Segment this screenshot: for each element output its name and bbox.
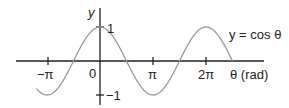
y-tick-label-neg-one: −1 [106, 89, 121, 102]
x-axis-label: θ (rad) [230, 68, 268, 81]
x-tick-label-pi: π [148, 68, 157, 81]
y-axis-label: y [88, 6, 95, 19]
x-tick-label-neg-pi: −π [37, 68, 54, 81]
x-tick-label-two-pi: 2π [198, 68, 214, 81]
origin-label: 0 [89, 67, 96, 80]
curve-annotation: y = cos θ [229, 28, 281, 41]
y-tick-label-one: 1 [107, 22, 114, 35]
chart-canvas [0, 0, 289, 108]
